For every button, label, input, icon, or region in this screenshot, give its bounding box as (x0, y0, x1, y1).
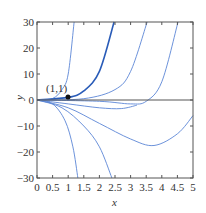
point-annotation: (1,1) (46, 82, 67, 95)
y-tick-label: 0 (29, 94, 35, 106)
x-tick-label: 2 (97, 181, 103, 193)
point-marker (66, 95, 71, 100)
chart: 00.511.522.533.544.55 3020100−10−20−30 (… (0, 0, 206, 213)
x-tick-label: 0.5 (46, 181, 60, 193)
x-tick-label: 4.5 (171, 181, 185, 193)
y-tick-label: −20 (17, 146, 35, 158)
x-tick-label: 2.5 (108, 181, 122, 193)
y-axis-label: y (13, 95, 25, 101)
x-tick-label: 1.5 (77, 181, 91, 193)
x-tick-label: 3.5 (139, 181, 153, 193)
series-line (37, 100, 112, 178)
y-tick-label: −30 (17, 172, 35, 184)
x-tick-label: 4 (159, 181, 165, 193)
y-tick-label: 10 (23, 68, 35, 80)
x-axis-label: x (111, 196, 117, 208)
x-tick-label: 5 (190, 181, 196, 193)
y-tick-label: 30 (23, 16, 35, 28)
x-tick-label: 0 (34, 181, 40, 193)
series-line (37, 100, 78, 178)
x-tick-label: 3 (128, 181, 134, 193)
y-tick-label: −10 (17, 120, 35, 132)
x-tick-label: 1 (65, 181, 71, 193)
y-tick-label: 20 (23, 42, 35, 54)
